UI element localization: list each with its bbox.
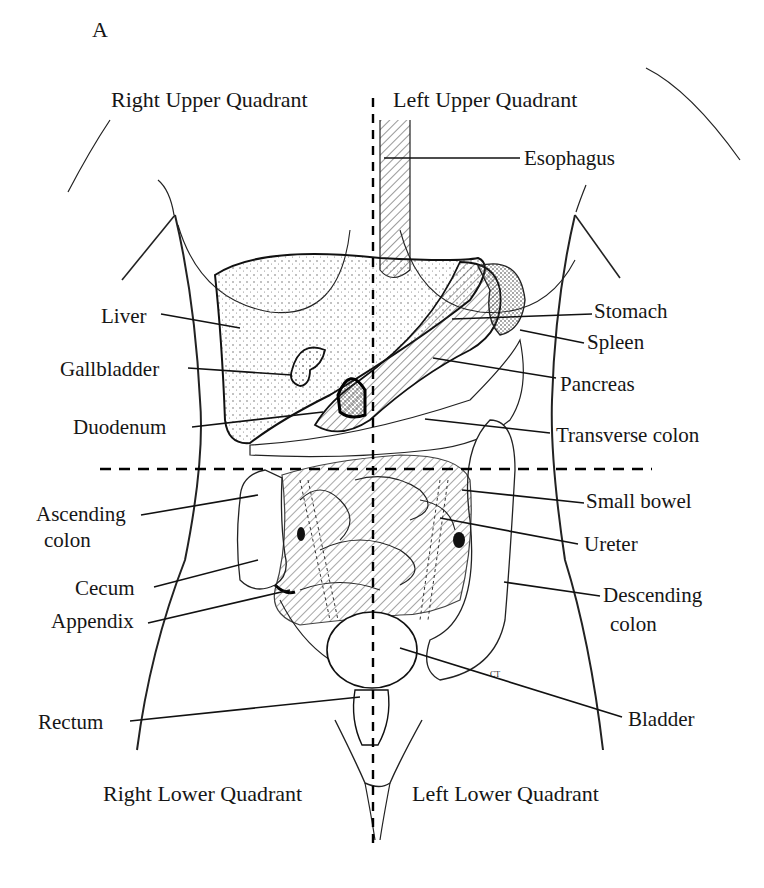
- abdominal-quadrants-diagram: A Right Upper Quadrant Left Upper Quadra…: [0, 0, 764, 888]
- label-ascending-colon-line1: Ascending: [36, 503, 126, 525]
- label-pancreas: Pancreas: [560, 373, 635, 395]
- esophagus-shape: [380, 120, 410, 278]
- label-transverse-colon: Transverse colon: [556, 424, 699, 446]
- label-gallbladder: Gallbladder: [60, 358, 159, 380]
- label-ascending-colon-line2: colon: [44, 529, 91, 551]
- label-cecum: Cecum: [75, 577, 134, 599]
- label-liver: Liver: [101, 305, 146, 327]
- ascending-colon-shape: [238, 470, 287, 589]
- label-descending-colon-line2: colon: [610, 613, 657, 635]
- label-rectum: Rectum: [38, 711, 103, 733]
- artist-initials: CT: [490, 664, 500, 686]
- label-stomach: Stomach: [594, 300, 668, 322]
- label-ureter: Ureter: [584, 533, 638, 555]
- panel-letter: A: [92, 19, 108, 41]
- label-spleen: Spleen: [587, 331, 644, 353]
- label-esophagus: Esophagus: [524, 147, 615, 169]
- quadrant-label-right-upper: Right Upper Quadrant: [111, 89, 308, 111]
- label-bladder: Bladder: [628, 708, 694, 730]
- label-duodenum: Duodenum: [73, 416, 166, 438]
- label-appendix: Appendix: [51, 610, 134, 632]
- quadrant-label-left-lower: Left Lower Quadrant: [412, 783, 599, 805]
- quadrant-label-right-lower: Right Lower Quadrant: [103, 783, 302, 805]
- ureter-opening-left: [453, 532, 465, 548]
- quadrant-label-left-upper: Left Upper Quadrant: [393, 89, 577, 111]
- label-descending-colon-line1: Descending: [603, 584, 702, 606]
- rectum-shape: [354, 690, 389, 745]
- label-small-bowel: Small bowel: [586, 490, 692, 512]
- duodenum-shape: [338, 379, 365, 417]
- ureter-opening-right: [297, 527, 305, 541]
